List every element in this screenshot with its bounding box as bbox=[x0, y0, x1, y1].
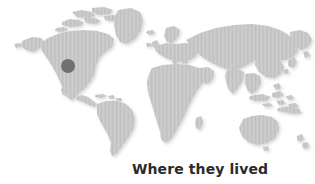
land-central-america bbox=[76, 95, 97, 107]
land-madagascar bbox=[195, 116, 203, 130]
land-new-zealand bbox=[297, 134, 309, 149]
land-africa bbox=[147, 64, 204, 143]
land-east-asia bbox=[255, 57, 284, 78]
land-iceland bbox=[146, 30, 155, 35]
land-north-america bbox=[40, 30, 114, 100]
land-greenland bbox=[114, 8, 143, 44]
map-area bbox=[0, 0, 315, 160]
land-scandinavia bbox=[164, 26, 180, 43]
land-arctic-islands bbox=[55, 7, 119, 32]
land-alaska bbox=[21, 37, 45, 52]
land-india bbox=[225, 69, 244, 94]
land-caribbean bbox=[95, 94, 122, 101]
land-tasmania bbox=[263, 146, 269, 151]
land-australia bbox=[239, 115, 279, 145]
land-south-america bbox=[97, 101, 135, 156]
world-map-figure: Where they lived bbox=[0, 0, 315, 184]
caption: Where they lived bbox=[0, 160, 315, 184]
location-marker bbox=[61, 59, 75, 73]
world-map bbox=[0, 0, 315, 160]
caption-text: Where they lived bbox=[132, 161, 268, 177]
land-southeast-asia bbox=[245, 73, 261, 94]
land-new-guinea bbox=[277, 106, 302, 114]
